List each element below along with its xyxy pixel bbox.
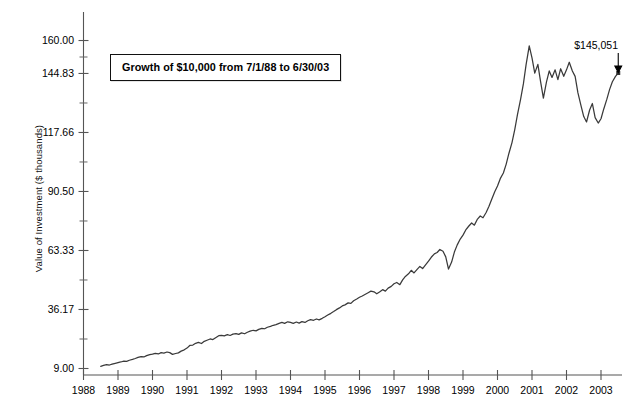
- callout-arrow-icon: [615, 53, 622, 73]
- end-value-callout: $145,051: [574, 39, 618, 51]
- data-line-growth: [101, 46, 619, 366]
- annotation-box: Growth of $10,000 from 7/1/88 to 6/30/03: [110, 54, 341, 81]
- chart-canvas: Value of Investment ($ thousands) 9.0036…: [0, 0, 640, 403]
